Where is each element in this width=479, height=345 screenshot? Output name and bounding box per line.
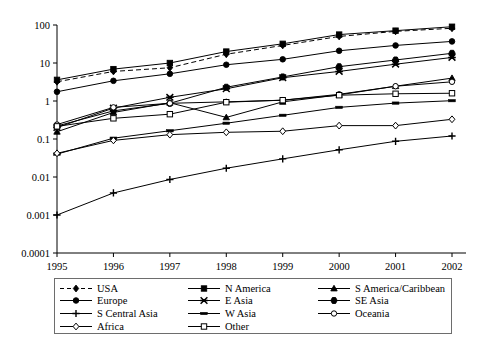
marker-diamond-open [280, 128, 286, 135]
marker-star-core [203, 299, 206, 302]
x-tick-label: 2001 [385, 261, 406, 270]
marker-square-filled [393, 28, 398, 33]
marker-dash-filled [279, 114, 286, 116]
marker-plus [72, 310, 79, 317]
legend-item-africa[interactable]: Africa [59, 320, 187, 333]
legend-item-usa[interactable]: USA [59, 282, 187, 295]
marker-square-filled [54, 77, 59, 82]
marker-square-open [280, 97, 285, 102]
marker-circle-open [449, 79, 454, 84]
legend-marker [201, 286, 206, 291]
series-line [57, 28, 452, 82]
marker-square-filled [201, 286, 206, 291]
legend-swatch-star-filled [187, 295, 221, 306]
y-axis-ticks: 1001010.10.010.0010.0001 [21, 20, 57, 259]
marker-square-open [54, 124, 59, 129]
legend-label: E Asia [225, 295, 253, 306]
marker-plus [166, 176, 173, 183]
legend-item-s-central-asia[interactable]: S Central Asia [59, 307, 187, 320]
y-tick-label: 10 [40, 58, 51, 69]
legend-label: Oceania [355, 308, 389, 319]
legend-item-other[interactable]: Other [187, 320, 317, 333]
y-tick-label: 0.01 [32, 172, 50, 183]
marker-hexagon-filled [223, 84, 229, 90]
legend-swatch-dash-filled [187, 308, 221, 319]
marker-plus [448, 132, 455, 139]
legend-marker [331, 298, 337, 304]
legend-item-europe[interactable]: Europe [59, 295, 187, 308]
legend-swatch-square-open [187, 321, 221, 332]
marker-dash-filled [336, 106, 343, 108]
marker-diamond-open [393, 122, 399, 129]
legend-item-s-america-caribbean[interactable]: S America/Caribbean [317, 282, 447, 295]
marker-square-open [224, 99, 229, 104]
log-line-chart: 1001010.10.010.0010.00011995199619971998… [0, 0, 479, 270]
marker-plus [110, 189, 117, 196]
x-axis-ticks: 19951996199719981999200020012002 [47, 253, 463, 270]
legend-item-oceania[interactable]: Oceania [317, 307, 447, 320]
marker-diamond-open [73, 323, 79, 330]
legend-swatch-diamond-open [59, 321, 93, 332]
marker-circle-filled [167, 71, 173, 77]
marker-square-open [449, 91, 454, 96]
legend-marker [73, 285, 78, 292]
chart-svg: 1001010.10.010.0010.00011995199619971998… [0, 0, 479, 270]
marker-circle-open [393, 84, 398, 89]
marker-circle-filled [54, 89, 60, 95]
marker-dash-filled [223, 122, 230, 124]
marker-hexagon-filled [392, 57, 398, 63]
marker-circle-open [331, 311, 336, 316]
x-tick-label: 1999 [272, 261, 293, 270]
legend-marker [331, 311, 336, 316]
legend-marker [73, 323, 79, 330]
legend-swatch-diamond-filled [59, 283, 93, 294]
marker-square-filled [167, 60, 172, 65]
marker-square-open [111, 116, 116, 121]
legend-item-e-asia[interactable]: E Asia [187, 295, 317, 308]
chart-legend: USAN AmericaS America/CaribbeanEuropeE A… [54, 278, 452, 334]
marker-dash-filled [392, 102, 399, 104]
legend-swatch-circle-filled [59, 295, 93, 306]
legend-swatch-triangle-filled [317, 283, 351, 294]
marker-square-filled [336, 32, 341, 37]
series-line [57, 136, 452, 215]
marker-hexagon-filled [449, 50, 455, 56]
chart-page: 1001010.10.010.0010.00011995199619971998… [0, 0, 479, 345]
legend-swatch-circle-open [317, 308, 351, 319]
marker-square-filled [449, 24, 454, 29]
legend-marker [201, 323, 206, 328]
marker-circle-filled [449, 39, 455, 45]
marker-circle-filled [393, 43, 399, 49]
marker-square-open [336, 93, 341, 98]
marker-diamond-open [449, 116, 455, 123]
marker-dash-filled [449, 99, 456, 101]
y-tick-label: 1 [45, 96, 50, 107]
marker-hexagon-filled [331, 298, 337, 304]
legend-swatch-square-filled [187, 283, 221, 294]
x-tick-label: 1995 [47, 261, 68, 270]
legend-label: Other [225, 321, 249, 332]
marker-circle-filled [223, 62, 229, 68]
legend-item-n-america[interactable]: N America [187, 282, 317, 295]
marker-circle-filled [336, 48, 342, 54]
legend-label: Africa [97, 321, 124, 332]
marker-plus [392, 138, 399, 145]
marker-square-filled [111, 66, 116, 71]
series-africa [54, 116, 455, 157]
marker-dash-filled [201, 312, 208, 314]
x-tick-label: 1998 [216, 261, 237, 270]
marker-star-core [338, 70, 341, 73]
marker-plus [279, 155, 286, 162]
marker-plus [223, 165, 230, 172]
marker-square-filled [280, 41, 285, 46]
legend-label: USA [97, 283, 118, 294]
legend-label: S Central Asia [97, 308, 158, 319]
y-tick-label: 0.1 [37, 134, 50, 145]
marker-star-core [168, 96, 171, 99]
y-tick-label: 0.001 [26, 210, 50, 221]
legend-item-w-asia[interactable]: W Asia [187, 307, 317, 320]
legend-swatch-plus [59, 308, 93, 319]
x-tick-label: 2002 [442, 261, 463, 270]
legend-item-se-asia[interactable]: SE Asia [317, 295, 447, 308]
x-tick-label: 1996 [103, 261, 124, 270]
